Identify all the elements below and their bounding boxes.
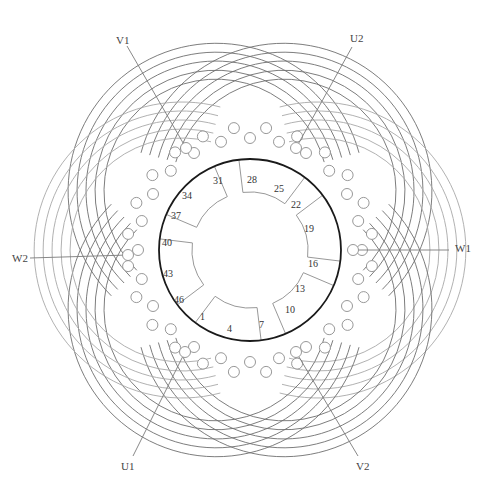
slot-terminal bbox=[261, 123, 272, 134]
slot-terminal bbox=[216, 353, 227, 364]
slot-number-labels: 28252219161310741464340373431 bbox=[162, 174, 318, 334]
slot-terminal bbox=[228, 123, 239, 134]
slot-terminal bbox=[165, 165, 176, 176]
coil-arc bbox=[68, 204, 359, 457]
slot-number: 1 bbox=[200, 311, 205, 322]
coil-arc bbox=[167, 70, 405, 276]
slot-number: 37 bbox=[171, 210, 181, 221]
slot-terminal bbox=[324, 165, 335, 176]
slot-terminal bbox=[319, 342, 330, 353]
slot-number: 16 bbox=[308, 258, 318, 269]
slot-terminal bbox=[342, 301, 353, 312]
terminal-node bbox=[291, 143, 302, 154]
slot-terminal bbox=[245, 133, 256, 144]
coil-arc bbox=[104, 230, 324, 421]
slot-terminal bbox=[358, 292, 369, 303]
slot-terminal bbox=[366, 261, 377, 272]
slot-terminal bbox=[131, 197, 142, 208]
slot-terminal bbox=[197, 358, 208, 369]
slot-terminal bbox=[123, 261, 134, 272]
terminal-label-w2: W2 bbox=[12, 252, 28, 264]
slot-terminal bbox=[301, 342, 312, 353]
slot-terminal bbox=[353, 274, 364, 285]
slot-terminal bbox=[216, 136, 227, 147]
slot-terminal bbox=[366, 228, 377, 239]
slot-terminal bbox=[165, 324, 176, 335]
winding-diagram-canvas: 28252219161310741464340373431 V1U2W1V2U1… bbox=[0, 0, 499, 500]
slot-terminal bbox=[197, 131, 208, 142]
coil-arc bbox=[141, 43, 432, 296]
coil-arc bbox=[95, 70, 333, 276]
slot-terminal bbox=[148, 189, 159, 200]
slot-terminal bbox=[147, 170, 158, 181]
slot-terminal bbox=[136, 216, 147, 227]
slot-terminal bbox=[245, 357, 256, 368]
terminal-label-v2: V2 bbox=[356, 460, 369, 472]
terminal-node bbox=[291, 347, 302, 358]
terminal-label-u2: U2 bbox=[350, 32, 363, 44]
slot-number: 31 bbox=[213, 175, 223, 186]
slot-terminal bbox=[324, 324, 335, 335]
slot-ring bbox=[123, 123, 378, 378]
slot-terminal bbox=[170, 342, 181, 353]
terminal-lead-v1 bbox=[127, 46, 186, 148]
slot-terminal bbox=[292, 131, 303, 142]
slot-terminal bbox=[147, 319, 158, 330]
slot-terminal bbox=[342, 319, 353, 330]
slot-number: 25 bbox=[274, 183, 284, 194]
slot-terminal bbox=[131, 292, 142, 303]
slot-terminal bbox=[301, 148, 312, 159]
slot-terminal bbox=[274, 136, 285, 147]
slot-terminal bbox=[123, 228, 134, 239]
slot-terminal bbox=[133, 245, 144, 256]
slot-number: 34 bbox=[182, 190, 192, 201]
winding-diagram: 28252219161310741464340373431 V1U2W1V2U1… bbox=[0, 0, 499, 500]
slot-terminal bbox=[170, 147, 181, 158]
terminal-label-w1: W1 bbox=[455, 242, 471, 254]
slot-terminal bbox=[274, 353, 285, 364]
slot-number: 46 bbox=[174, 294, 184, 305]
slot-terminal bbox=[261, 366, 272, 377]
terminal-node bbox=[180, 347, 191, 358]
slot-terminal bbox=[148, 301, 159, 312]
terminal-node bbox=[123, 250, 134, 261]
slot-number: 43 bbox=[163, 268, 173, 279]
terminal-lead-u2 bbox=[296, 47, 352, 148]
slot-number: 22 bbox=[291, 199, 301, 210]
terminal-node bbox=[181, 143, 192, 154]
slot-number: 7 bbox=[259, 319, 264, 330]
slot-terminal bbox=[228, 366, 239, 377]
terminal-lead-w2 bbox=[30, 255, 128, 258]
slot-terminal bbox=[319, 147, 330, 158]
terminal-label-u1: U1 bbox=[121, 460, 134, 472]
slot-number: 10 bbox=[285, 304, 295, 315]
slot-number: 40 bbox=[162, 237, 172, 248]
terminal-label-v1: V1 bbox=[116, 34, 129, 46]
stator-circle bbox=[159, 159, 341, 341]
slot-terminal bbox=[358, 197, 369, 208]
slot-terminal bbox=[342, 170, 353, 181]
slot-number: 28 bbox=[247, 174, 257, 185]
slot-terminal bbox=[353, 216, 364, 227]
coil-side-segments bbox=[160, 160, 341, 341]
slot-terminal bbox=[136, 274, 147, 285]
coil-arc bbox=[176, 79, 396, 270]
coil-side-bracket bbox=[296, 195, 340, 261]
slot-number: 4 bbox=[227, 323, 232, 334]
slot-number: 13 bbox=[295, 283, 305, 294]
coil-arc bbox=[167, 223, 405, 429]
terminal-node bbox=[348, 245, 359, 256]
coil-arc bbox=[86, 61, 342, 283]
slot-number: 19 bbox=[304, 223, 314, 234]
coil-arc bbox=[86, 217, 342, 439]
slot-terminal bbox=[342, 189, 353, 200]
coil-arc bbox=[176, 230, 396, 421]
